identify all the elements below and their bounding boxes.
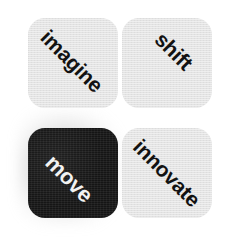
tile-shift-label: shift [151,28,196,73]
tile-move-label: move [41,151,97,207]
tile-innovate[interactable]: innovate [122,128,212,218]
tile-grid: imagine shift move innovate [28,18,212,218]
tile-move[interactable]: move [28,128,118,218]
tile-shift[interactable]: shift [122,18,212,108]
tile-imagine-label: imagine [37,26,107,96]
tile-grid-graphic: imagine shift move innovate [0,0,234,238]
tile-innovate-label: innovate [130,136,205,211]
tile-imagine[interactable]: imagine [28,18,118,108]
